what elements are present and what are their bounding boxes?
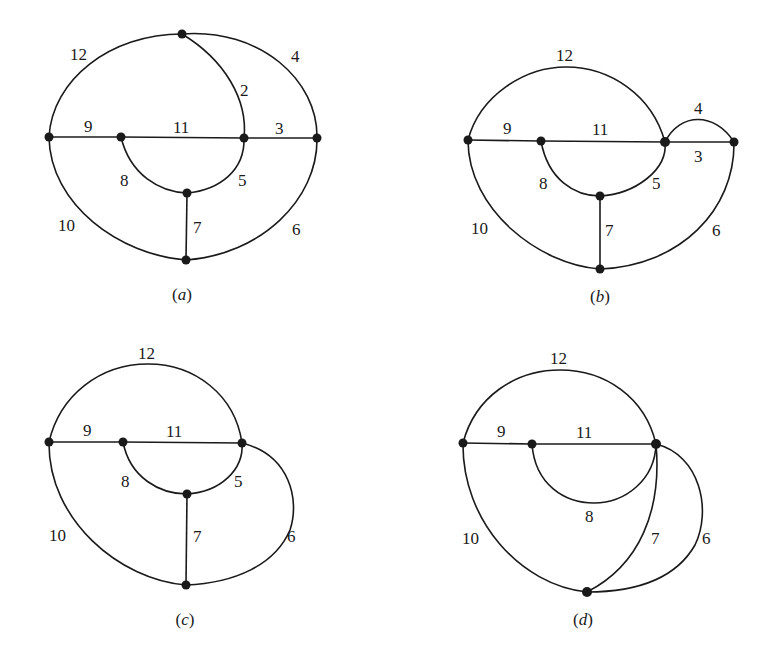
panel-caption: (a) xyxy=(172,285,192,304)
edge-label-10: 10 xyxy=(462,529,479,548)
edge-label-9: 9 xyxy=(497,422,506,441)
node xyxy=(596,265,605,274)
edge-label-10: 10 xyxy=(58,216,75,235)
node xyxy=(313,134,322,143)
node xyxy=(238,439,247,448)
edge-8 xyxy=(532,444,656,503)
edge-label-2: 2 xyxy=(240,81,249,100)
edge-7 xyxy=(186,494,187,585)
edge-10 xyxy=(49,442,186,585)
edge-label-10: 10 xyxy=(49,526,66,545)
edge-label-8: 8 xyxy=(539,174,548,193)
edge-6 xyxy=(186,443,294,585)
edge-label-6: 6 xyxy=(702,529,711,548)
panel-b: 12 4 9 11 3 8 5 10 7 6 (b) xyxy=(464,46,739,306)
edge-10 xyxy=(463,443,587,592)
edge-label-9: 9 xyxy=(83,421,92,440)
edge-8 xyxy=(123,442,187,494)
edge-label-6: 6 xyxy=(287,527,296,546)
edge-label-7: 7 xyxy=(651,529,660,548)
edge-12 xyxy=(49,364,242,443)
edge-11 xyxy=(123,442,242,443)
edge-label-11: 11 xyxy=(592,120,608,139)
edge-8 xyxy=(541,141,600,196)
node xyxy=(182,256,191,265)
edge-label-9: 9 xyxy=(503,119,512,138)
node xyxy=(182,581,191,590)
edge-label-3: 3 xyxy=(275,119,284,138)
edge-label-12: 12 xyxy=(550,349,567,368)
node xyxy=(183,189,192,198)
edge-label-12: 12 xyxy=(70,45,87,64)
edge-label-3: 3 xyxy=(694,147,703,166)
node xyxy=(528,440,537,449)
edge-11 xyxy=(121,137,244,138)
edge-7 xyxy=(587,444,657,592)
node xyxy=(45,438,54,447)
panel-caption: (b) xyxy=(590,287,610,306)
node xyxy=(119,438,128,447)
panel-d: 12 9 11 8 10 7 6 (d) xyxy=(459,349,711,629)
node xyxy=(178,30,187,39)
edge-5 xyxy=(187,138,244,193)
edge-label-11: 11 xyxy=(173,118,189,137)
edge-label-12: 12 xyxy=(138,344,155,363)
edge-label-7: 7 xyxy=(193,527,202,546)
edge-label-5: 5 xyxy=(652,174,661,193)
edge-12 xyxy=(49,34,182,137)
panel-c: 12 9 11 8 5 10 7 6 (c) xyxy=(45,344,296,629)
node xyxy=(240,134,249,143)
edge-label-9: 9 xyxy=(84,117,93,136)
edge-label-12: 12 xyxy=(556,46,573,65)
edge-label-11: 11 xyxy=(166,422,182,441)
edge-11 xyxy=(541,141,665,142)
edge-9 xyxy=(463,443,532,444)
edge-label-7: 7 xyxy=(193,218,202,237)
panel-a: 12 4 2 9 11 3 8 5 10 7 6 (a) xyxy=(45,30,322,305)
node xyxy=(660,137,670,147)
edge-12 xyxy=(468,67,665,142)
edge-10 xyxy=(49,137,186,260)
edge-6 xyxy=(186,138,317,260)
edge-10 xyxy=(468,140,600,269)
edge-9 xyxy=(468,140,541,141)
edge-label-8: 8 xyxy=(121,472,130,491)
edge-label-10: 10 xyxy=(471,219,488,238)
edge-label-7: 7 xyxy=(605,221,614,240)
edge-4 xyxy=(665,120,734,143)
edge-label-5: 5 xyxy=(238,171,247,190)
node xyxy=(596,192,605,201)
edge-12 xyxy=(463,370,656,444)
node xyxy=(537,137,546,146)
edge-label-6: 6 xyxy=(292,220,301,239)
node xyxy=(117,133,126,142)
edge-2 xyxy=(182,34,244,138)
node xyxy=(730,138,739,147)
node xyxy=(464,136,473,145)
edge-label-4: 4 xyxy=(291,47,300,66)
edge-label-8: 8 xyxy=(585,507,594,526)
edge-label-11: 11 xyxy=(576,423,592,442)
edge-label-5: 5 xyxy=(234,472,243,491)
edge-8 xyxy=(121,137,187,193)
graph-reduction-figure: 12 4 2 9 11 3 8 5 10 7 6 (a) 12 4 9 1 xyxy=(0,0,766,647)
panel-caption: (c) xyxy=(176,610,195,629)
edge-7 xyxy=(186,193,187,260)
edge-label-4: 4 xyxy=(694,99,703,118)
panel-caption: (d) xyxy=(573,610,593,629)
node xyxy=(45,133,54,142)
node xyxy=(183,490,192,499)
node xyxy=(459,439,468,448)
node xyxy=(651,439,661,449)
edge-6 xyxy=(600,142,734,269)
edge-6 xyxy=(587,444,702,592)
node xyxy=(582,587,592,597)
edge-label-6: 6 xyxy=(712,221,721,240)
edge-label-8: 8 xyxy=(120,171,129,190)
